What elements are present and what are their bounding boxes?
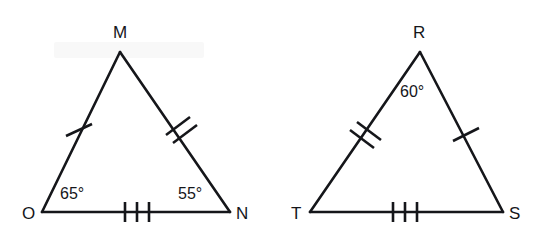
angle-label-O-65: 65°	[60, 185, 84, 202]
side-RS	[420, 52, 503, 212]
side-TR	[310, 52, 420, 212]
vertex-label-S: S	[509, 204, 520, 223]
tick-mark-double-side-MN	[166, 117, 197, 143]
vertex-label-M: M	[113, 23, 127, 42]
geometry-figure: M O N 65° 55°	[0, 0, 534, 230]
vertex-label-T: T	[291, 204, 301, 223]
triangle-MON: M O N 65° 55°	[22, 23, 248, 223]
angle-label-R-60: 60°	[400, 83, 424, 100]
angle-label-N-55: 55°	[178, 185, 202, 202]
vertex-label-R: R	[413, 23, 425, 42]
vertex-label-N: N	[236, 204, 248, 223]
tick-mark-double-side-TR	[350, 122, 381, 148]
triangle-RTS: R T S 60°	[291, 23, 520, 223]
vertex-label-O: O	[22, 204, 35, 223]
triangles-canvas: M O N 65° 55°	[0, 0, 534, 230]
side-MN	[120, 52, 230, 212]
